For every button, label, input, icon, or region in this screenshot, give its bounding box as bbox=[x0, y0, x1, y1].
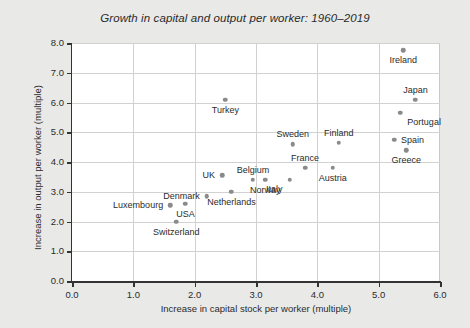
y-axis-tick-mark bbox=[67, 43, 72, 45]
data-point-label: Finland bbox=[324, 128, 354, 138]
y-axis-tick-mark bbox=[67, 132, 72, 134]
x-axis-tick-mark bbox=[440, 282, 442, 287]
y-axis-tick-label: 8.0 bbox=[36, 37, 64, 48]
data-point-label: Greece bbox=[392, 155, 422, 165]
y-axis-tick-mark bbox=[67, 162, 72, 164]
gridline-vertical bbox=[133, 43, 134, 281]
data-point bbox=[398, 111, 403, 116]
data-point bbox=[263, 178, 268, 183]
y-axis-tick-mark bbox=[67, 73, 72, 75]
x-axis-tick-label: 1.0 bbox=[113, 289, 153, 300]
data-point bbox=[303, 166, 308, 171]
data-point-label: France bbox=[291, 153, 319, 163]
y-axis-title: Increase in output per worker (multiple) bbox=[32, 48, 43, 288]
y-axis-tick-mark bbox=[67, 192, 72, 194]
data-point-label: Luxembourg bbox=[113, 200, 163, 210]
data-point bbox=[229, 190, 234, 195]
data-point-label: Turkey bbox=[212, 105, 239, 115]
x-axis-tick-mark bbox=[256, 282, 258, 287]
x-axis-tick-mark bbox=[72, 282, 74, 287]
data-point bbox=[287, 178, 292, 183]
data-point-label: Netherlands bbox=[207, 197, 256, 207]
x-axis-tick-label: 4.0 bbox=[297, 289, 337, 300]
data-point-label: Spain bbox=[401, 135, 424, 145]
data-point bbox=[413, 97, 418, 102]
x-axis-tick-label: 0.0 bbox=[52, 289, 92, 300]
x-axis-tick-mark bbox=[133, 282, 135, 287]
x-axis-tick-mark bbox=[195, 282, 197, 287]
chart-title: Growth in capital and output per worker:… bbox=[0, 12, 470, 24]
data-point-label: Portugal bbox=[407, 117, 441, 127]
x-axis-tick-label: 3.0 bbox=[236, 289, 276, 300]
data-point-label: Switzerland bbox=[153, 227, 200, 237]
data-point bbox=[392, 137, 397, 142]
data-point bbox=[223, 97, 228, 102]
gridline-vertical bbox=[195, 43, 196, 281]
data-point bbox=[183, 201, 188, 206]
data-point-label: Denmark bbox=[163, 191, 200, 201]
data-point-label: Italy bbox=[266, 184, 283, 194]
data-point-label: Ireland bbox=[389, 55, 417, 65]
x-axis-tick-mark bbox=[379, 282, 381, 287]
y-axis-tick-mark bbox=[67, 103, 72, 105]
gridline-vertical bbox=[379, 43, 380, 281]
y-axis-tick-mark bbox=[67, 222, 72, 224]
x-axis-tick-label: 5.0 bbox=[359, 289, 399, 300]
data-point bbox=[174, 219, 179, 224]
data-point bbox=[205, 194, 210, 199]
data-point bbox=[220, 173, 225, 178]
data-point bbox=[401, 48, 406, 53]
x-axis-title: Increase in capital stock per worker (mu… bbox=[72, 303, 440, 314]
data-point bbox=[251, 178, 256, 183]
gridline-vertical bbox=[256, 43, 257, 281]
x-axis-tick-mark bbox=[317, 282, 319, 287]
data-point bbox=[404, 148, 409, 153]
data-point-label: Austria bbox=[319, 173, 347, 183]
scatter-chart: Growth in capital and output per worker:… bbox=[0, 0, 470, 328]
data-point-label: Japan bbox=[403, 85, 428, 95]
data-point-label: USA bbox=[176, 209, 195, 219]
data-point-label: Belgium bbox=[237, 165, 270, 175]
data-point-label: Sweden bbox=[277, 129, 310, 139]
data-point-label: UK bbox=[203, 170, 216, 180]
plot-area: IrelandJapanTurkeyPortugalSpainFinlandSw… bbox=[72, 43, 440, 281]
data-point bbox=[337, 140, 342, 145]
data-point bbox=[330, 166, 335, 171]
data-point bbox=[291, 142, 296, 147]
x-axis-tick-label: 6.0 bbox=[420, 289, 460, 300]
data-point bbox=[168, 203, 173, 208]
x-axis-tick-label: 2.0 bbox=[175, 289, 215, 300]
y-axis-tick-mark bbox=[67, 251, 72, 253]
